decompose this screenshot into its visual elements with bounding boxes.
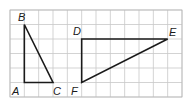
vertex-label-a: A [11,85,19,97]
vertex-label-d: D [73,25,81,37]
vertex-label-e: E [169,26,177,38]
vertex-label-b: B [18,11,25,23]
vertex-label-f: F [71,85,79,97]
triangle-grid-diagram: B A C D E F [0,0,193,100]
grid-lines [10,10,182,97]
vertex-label-c: C [53,85,61,97]
